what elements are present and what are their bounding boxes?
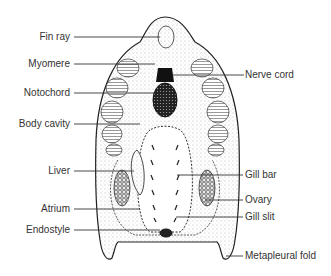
- label-gill-bar: Gill bar: [245, 169, 277, 181]
- label-myomere: Myomere: [0, 58, 70, 70]
- label-notochord: Notochord: [0, 87, 70, 99]
- label-nerve-cord: Nerve cord: [245, 69, 294, 81]
- label-fin-ray: Fin ray: [0, 31, 70, 43]
- label-body-cavity: Body cavity: [0, 118, 70, 130]
- label-atrium: Atrium: [0, 203, 70, 215]
- label-ovary: Ovary: [245, 194, 272, 206]
- label-gill-slit: Gill slit: [245, 211, 274, 223]
- label-endostyle: Endostyle: [0, 224, 70, 236]
- label-metapleural-fold: Metapleural fold: [245, 250, 316, 262]
- label-liver: Liver: [0, 165, 70, 177]
